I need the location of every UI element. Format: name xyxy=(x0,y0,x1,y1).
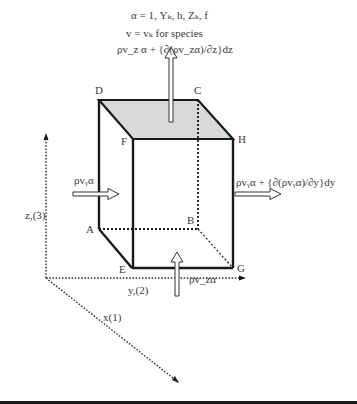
vertex-C: C xyxy=(194,84,201,96)
variable-definition: α = 1, Yₖ, h, Zₖ, f xyxy=(131,9,208,21)
vertex-H: H xyxy=(238,133,246,145)
z-arrow-icon xyxy=(44,133,49,140)
x-axis-label: x(1) xyxy=(103,311,121,323)
left-inflow-arrow-icon xyxy=(73,189,119,200)
top-face-DCHF xyxy=(99,100,233,139)
right-outflow-arrow-icon xyxy=(235,189,281,200)
control-volume-diagram xyxy=(0,0,357,404)
right-flux-label: ρvᵧα + {∂(ρvᵧα)/∂y}dy xyxy=(236,176,335,188)
species-velocity-note: v = vₖ for species xyxy=(126,27,203,39)
y-arrow-icon xyxy=(239,276,246,281)
vertex-D: D xyxy=(95,84,103,96)
vertex-F: F xyxy=(121,135,127,147)
vertex-A: A xyxy=(86,223,94,235)
top-flux-label: ρv_z α + {∂(ρv_zα)/∂z}dz xyxy=(117,43,233,55)
y-axis-label: y,(2) xyxy=(128,284,148,296)
flux-arrows xyxy=(73,47,281,296)
vertex-E: E xyxy=(119,263,126,275)
vertex-G: G xyxy=(237,262,245,274)
axis-arrowheads xyxy=(44,133,247,383)
bottom-inflow-arrow-icon xyxy=(171,252,183,296)
left-flux-label: ρvᵧα xyxy=(74,174,94,186)
vertex-B: B xyxy=(187,214,194,226)
bottom-flux-label: ρv_zα xyxy=(189,273,216,285)
z-axis-label: z,(3) xyxy=(25,209,45,221)
